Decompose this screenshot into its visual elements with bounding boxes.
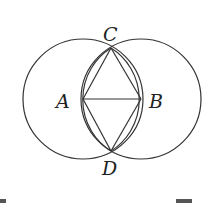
- segment-bc: [111, 48, 141, 99]
- label-c: C: [103, 23, 118, 45]
- cropped-fragment-left: [0, 199, 6, 203]
- label-b: B: [148, 90, 163, 112]
- cropped-fragment-right: [176, 199, 192, 203]
- label-a: A: [54, 90, 70, 112]
- label-d: D: [101, 157, 117, 179]
- geometry-diagram: C A B D: [0, 0, 217, 203]
